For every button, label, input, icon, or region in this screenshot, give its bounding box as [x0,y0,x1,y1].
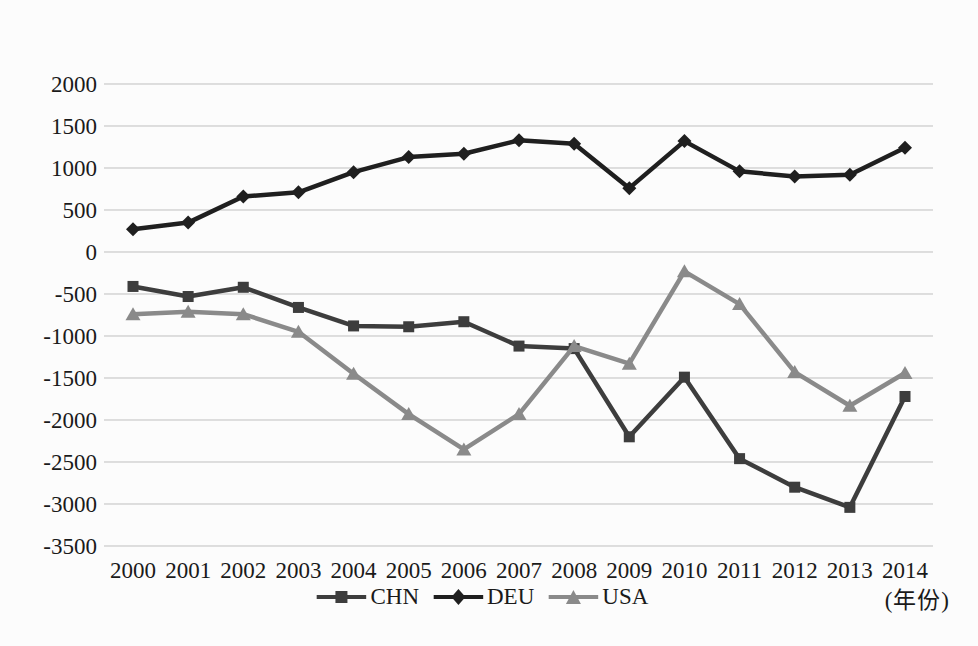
data-point-deu [291,185,305,199]
data-point-chn [293,302,304,313]
line-chart-plot-area: 2000150010005000-500-1000-1500-2000-2500… [0,0,978,646]
y-tick-label: 2000 [51,72,97,97]
legend-item-usa: USA [548,584,648,610]
chart-legend: CHN DEU USA [316,584,648,610]
data-point-deu [843,168,857,182]
data-point-chn [734,453,745,464]
x-tick-label: 2000 [110,558,156,583]
data-point-chn [458,316,469,327]
x-tick-label: 2010 [661,558,707,583]
y-tick-label: 1500 [51,114,97,139]
x-axis-unit-label: (年份) [885,581,950,615]
x-tick-label: 2013 [827,558,873,583]
data-point-deu [126,222,140,236]
data-point-chn [128,281,139,292]
x-tick-label: 2005 [386,558,432,583]
y-tick-label: 500 [63,198,98,223]
y-tick-label: -500 [55,282,97,307]
y-tick-label: -1000 [43,324,97,349]
data-point-deu [898,141,912,155]
legend-label-usa: USA [602,584,648,610]
data-point-chn [679,372,690,383]
data-point-deu [512,133,526,147]
data-point-chn [238,282,249,293]
data-point-chn [844,502,855,513]
legend-label-deu: DEU [487,584,534,610]
x-tick-label: 2012 [772,558,818,583]
y-tick-label: -2500 [43,450,97,475]
series-line-deu [133,140,905,229]
y-tick-label: -1500 [43,366,97,391]
data-point-deu [347,165,361,179]
x-tick-label: 2014 [882,558,929,583]
data-point-usa [677,264,692,277]
data-point-deu [457,147,471,161]
x-tick-label: 2008 [551,558,597,583]
y-tick-label: -3000 [43,492,97,517]
data-point-chn [900,391,911,402]
chn-square-marker-icon [316,589,366,605]
deu-diamond-marker-icon [433,589,483,605]
data-point-chn [789,482,800,493]
x-tick-label: 2002 [220,558,266,583]
data-point-deu [181,216,195,230]
usa-triangle-marker-icon [548,589,598,605]
data-point-deu [788,169,802,183]
legend-label-chn: CHN [370,584,419,610]
data-point-deu [236,190,250,204]
x-tick-label: 2009 [606,558,652,583]
data-point-chn [403,321,414,332]
x-tick-label: 2004 [331,558,378,583]
data-point-chn [514,341,525,352]
y-tick-label: -3500 [43,534,97,559]
data-point-chn [183,291,194,302]
y-tick-label: 1000 [51,156,97,181]
x-tick-label: 2006 [441,558,487,583]
series-line-usa [133,271,905,449]
data-point-chn [348,320,359,331]
trade-balance-line-chart-figure: (亿美元) 2000150010005000-500-1000-1500-200… [0,0,978,646]
x-tick-label: 2001 [165,558,211,583]
data-point-deu [402,150,416,164]
y-tick-label: -2000 [43,408,97,433]
data-point-chn [624,431,635,442]
x-tick-label: 2007 [496,558,542,583]
x-tick-label: 2011 [717,558,762,583]
x-tick-label: 2003 [275,558,321,583]
legend-item-deu: DEU [433,584,534,610]
legend-item-chn: CHN [316,584,419,610]
y-tick-label: 0 [86,240,98,265]
data-point-usa [898,366,913,379]
